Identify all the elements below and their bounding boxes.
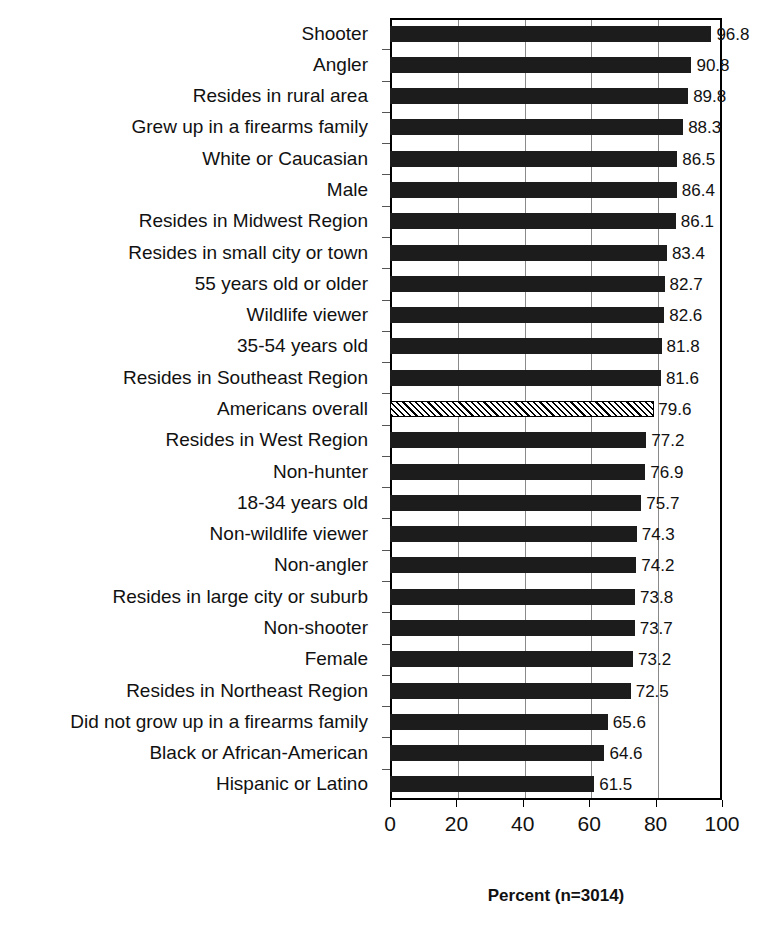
bar: 72.5 [390, 683, 631, 699]
bar-row: 88.3 [390, 112, 722, 143]
category-label: Non-wildlife viewer [0, 518, 376, 549]
bar: 64.6 [390, 745, 604, 761]
x-axis-tick [656, 800, 657, 807]
category-label: Female [0, 644, 376, 675]
bar-value-label: 74.2 [641, 557, 674, 574]
bar-row: 86.5 [390, 143, 722, 174]
x-axis-tick [523, 800, 524, 807]
y-axis-tick [382, 237, 390, 238]
bar-value-label: 73.2 [638, 651, 671, 668]
bar-value-label: 86.5 [682, 150, 715, 167]
bar: 82.6 [390, 307, 664, 323]
x-axis-tick-label: 80 [644, 812, 667, 836]
bar-value-label: 79.6 [658, 400, 691, 417]
y-axis-tick [382, 425, 390, 426]
bar-value-label: 89.8 [693, 88, 726, 105]
category-label: Did not grow up in a firearms family [0, 706, 376, 737]
bar-value-label: 82.7 [670, 275, 703, 292]
bar: 90.8 [390, 57, 691, 73]
category-label: Wildlife viewer [0, 300, 376, 331]
category-label: White or Caucasian [0, 143, 376, 174]
y-axis-tick [382, 612, 390, 613]
category-label: Black or African-American [0, 737, 376, 768]
bar-value-label: 74.3 [642, 526, 675, 543]
y-axis-tick [382, 81, 390, 82]
category-label: Male [0, 174, 376, 205]
bar: 89.8 [390, 88, 688, 104]
x-axis-tick [390, 800, 391, 807]
bar: 82.7 [390, 276, 665, 292]
bar-row: 77.2 [390, 425, 722, 456]
y-axis-tick [382, 487, 390, 488]
category-label: Grew up in a firearms family [0, 112, 376, 143]
category-label: 55 years old or older [0, 268, 376, 299]
bar-value-label: 82.6 [669, 307, 702, 324]
category-label: Resides in small city or town [0, 237, 376, 268]
category-label: Americans overall [0, 393, 376, 424]
category-axis-labels: ShooterAnglerResides in rural areaGrew u… [0, 18, 376, 800]
x-axis-title: Percent (n=3014) [390, 886, 722, 906]
bar-value-label: 96.8 [716, 25, 749, 42]
bar: 81.8 [390, 338, 662, 354]
y-axis-tick [382, 706, 390, 707]
y-axis-tick [382, 550, 390, 551]
bar: 96.8 [390, 26, 711, 42]
y-axis-tick [382, 206, 390, 207]
bar-row: 72.5 [390, 675, 722, 706]
bar-row: 90.8 [390, 49, 722, 80]
y-axis-tick [382, 456, 390, 457]
bar-series: 96.890.889.888.386.586.486.183.482.782.6… [390, 18, 722, 800]
x-axis-tick [456, 800, 457, 807]
x-axis-tick-label: 100 [704, 812, 739, 836]
bar-row: 96.8 [390, 18, 722, 49]
y-axis-tick [382, 675, 390, 676]
bar-row: 81.6 [390, 362, 722, 393]
bar: 86.1 [390, 213, 676, 229]
bar-row: 73.8 [390, 581, 722, 612]
bar: 86.4 [390, 182, 677, 198]
bar-value-label: 86.1 [681, 213, 714, 230]
bar-value-label: 77.2 [651, 432, 684, 449]
x-axis-tick-label: 0 [384, 812, 396, 836]
bar-value-label: 76.9 [650, 463, 683, 480]
bar: 74.2 [390, 557, 636, 573]
bar: 88.3 [390, 119, 683, 135]
bar-row: 89.8 [390, 81, 722, 112]
category-label: Hispanic or Latino [0, 769, 376, 800]
bar-value-label: 90.8 [696, 56, 729, 73]
bar: 61.5 [390, 776, 594, 792]
category-label: Resides in West Region [0, 425, 376, 456]
category-label: 18-34 years old [0, 487, 376, 518]
category-label: 35-54 years old [0, 331, 376, 362]
bar-row: 76.9 [390, 456, 722, 487]
bar: 73.2 [390, 651, 633, 667]
bar: 81.6 [390, 370, 661, 386]
y-axis-tick [382, 143, 390, 144]
bar-row: 74.3 [390, 518, 722, 549]
x-axis-tick-label: 60 [578, 812, 601, 836]
bar-row: 86.1 [390, 206, 722, 237]
bar-row: 73.2 [390, 644, 722, 675]
horizontal-bar-chart: ShooterAnglerResides in rural areaGrew u… [0, 0, 776, 931]
y-axis-tick [382, 737, 390, 738]
category-label: Resides in large city or suburb [0, 581, 376, 612]
bar: 86.5 [390, 151, 677, 167]
y-axis-tick [382, 769, 390, 770]
category-label: Non-hunter [0, 456, 376, 487]
bar-row: 81.8 [390, 331, 722, 362]
category-label: Resides in rural area [0, 81, 376, 112]
category-label: Angler [0, 49, 376, 80]
category-label: Non-angler [0, 550, 376, 581]
bar: 83.4 [390, 245, 667, 261]
bar-value-label: 72.5 [636, 682, 669, 699]
bar-row: 83.4 [390, 237, 722, 268]
bar-value-label: 73.7 [640, 619, 673, 636]
y-axis-tick [382, 581, 390, 582]
bar-row: 82.7 [390, 268, 722, 299]
x-axis-tick [722, 800, 723, 807]
bar-row: 74.2 [390, 550, 722, 581]
bar: 76.9 [390, 464, 645, 480]
y-axis-tick [382, 268, 390, 269]
bar-value-label: 65.6 [613, 713, 646, 730]
y-axis-tick [382, 49, 390, 50]
